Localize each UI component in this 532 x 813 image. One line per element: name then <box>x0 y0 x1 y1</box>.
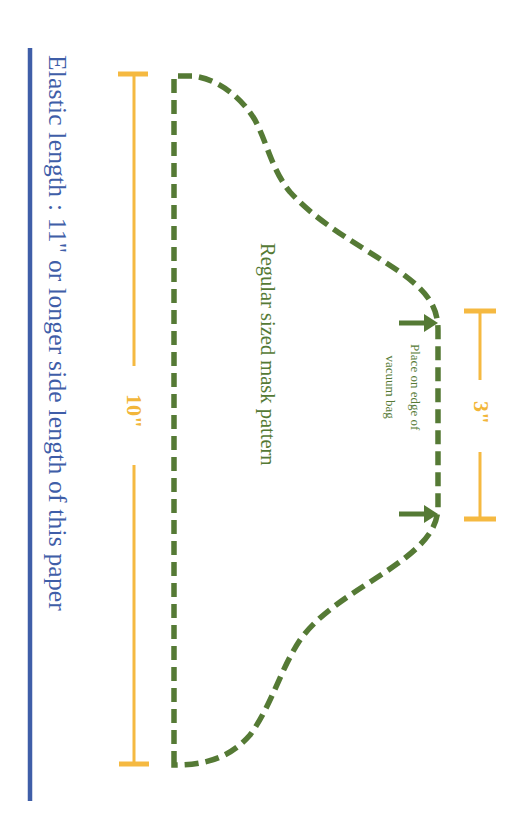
placement-note-line1: Place on edge of <box>403 344 428 430</box>
pattern-title: Regular sized mask pattern <box>256 243 279 466</box>
arrow-right-icon <box>399 505 438 523</box>
arrow-right-icon <box>399 314 438 332</box>
height-dimension-label: 10" <box>121 394 147 428</box>
placement-note-line2: vacuum bag <box>378 344 403 430</box>
placement-note: Place on edge of vacuum bag <box>378 344 428 430</box>
elastic-length-label: Elastic length : 11" or longer side leng… <box>42 55 72 611</box>
edge-dimension-label: 3" <box>468 401 494 424</box>
